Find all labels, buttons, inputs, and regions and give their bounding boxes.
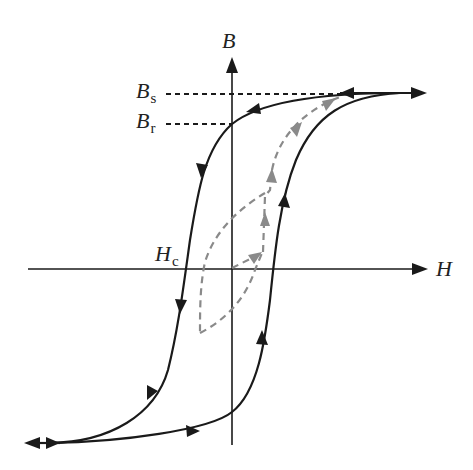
remanence-label-main: B [136,108,149,133]
h-axis-label: H [436,258,452,280]
saturation-label-sub: s [150,90,156,106]
b-axis-arrow-icon [226,57,238,73]
remanence-label-sub: r [150,120,155,136]
hysteresis-diagram [0,0,473,470]
major-loop [24,87,427,449]
coercivity-label-sub: c [172,253,179,269]
arrow-left-down-2-icon [175,299,187,314]
minor-loop-ascending [200,253,262,333]
descending-branch [50,93,400,443]
saturation-return-arrow-icon [340,87,354,99]
initial-curve-segment-2 [263,97,340,252]
gray-arrow-3-icon [266,168,277,183]
gray-arrow-2-icon [260,212,270,226]
arrow-right-up-2-icon [278,193,290,208]
positive-saturation-arrow-icon [411,87,427,99]
negative-saturation-arrow-icon [24,437,40,449]
h-axis-arrow-icon [412,263,428,275]
negative-saturation-return-arrow-icon [46,437,60,449]
coercivity-label: Hc [155,243,179,265]
saturation-label: Bs [136,80,156,102]
initial-curve-arrows [248,98,336,264]
remanence-label: Br [136,110,155,132]
arrow-left-down-3-icon [147,385,158,400]
saturation-label-main: B [136,78,149,103]
ascending-branch [50,93,400,443]
b-axis-label-text: B [222,28,235,53]
coercivity-label-main: H [155,241,171,266]
b-axis-label: B [222,30,235,52]
arrow-upper-left-icon [246,103,261,114]
gray-arrow-5-icon [322,98,336,111]
arrow-left-down-1-icon [196,163,208,178]
axes [28,57,428,445]
h-axis-label-text: H [436,256,452,281]
